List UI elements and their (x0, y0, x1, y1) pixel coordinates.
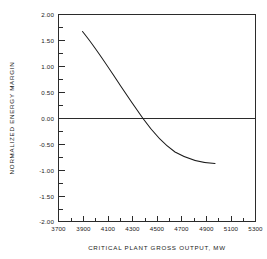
y-tick-label: 1.50 (41, 37, 54, 44)
x-tick-label: 5300 (248, 225, 263, 232)
x-tick-label: 5100 (224, 225, 239, 232)
x-tick-label: 4100 (101, 225, 116, 232)
chart-figure: 2.00 1.50 1.00 0.50 0.00 -0.50 -1.00 -1.… (0, 0, 267, 259)
x-tick-label: 3900 (76, 225, 91, 232)
y-tick-label: 1.00 (41, 63, 54, 70)
y-axis-title: NORMALIZED ENERGY MARGIN (8, 62, 15, 175)
y-tick-label: 0.50 (41, 89, 54, 96)
y-tick-label: -1.50 (39, 193, 54, 200)
x-tick-label: 3700 (51, 225, 66, 232)
y-tick-label: 0.00 (41, 115, 54, 122)
y-tick-label: -1.00 (39, 167, 54, 174)
y-tick-label: -2.00 (39, 218, 54, 225)
y-tick-label: -0.50 (39, 141, 54, 148)
y-axis-tick-labels: 2.00 1.50 1.00 0.50 0.00 -0.50 -1.00 -1.… (39, 11, 54, 225)
x-axis-title: CRITICAL PLANT GROSS OUTPUT, MW (88, 244, 226, 251)
x-tick-label: 4500 (150, 225, 165, 232)
x-tick-label: 4900 (199, 225, 214, 232)
y-tick-label: 2.00 (41, 11, 54, 18)
x-axis-tick-labels: 3700 3900 4100 4300 4500 4700 4900 5100 … (51, 225, 263, 232)
x-tick-label: 4300 (125, 225, 140, 232)
x-tick-label: 4700 (174, 225, 189, 232)
